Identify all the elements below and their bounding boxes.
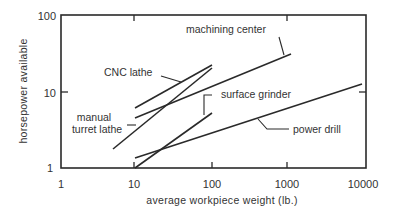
y-axis-title: horsepower available (17, 38, 29, 143)
x-tick-10: 10 (128, 178, 140, 190)
series-manual-turret-lathe (113, 68, 212, 149)
x-tick-1000: 1000 (275, 178, 299, 190)
x-axis-title: average workpiece weight (lb.) (146, 194, 297, 206)
series-machining-center (135, 54, 291, 118)
plot-frame (61, 15, 366, 168)
x-tick-100: 100 (203, 178, 221, 190)
chart: 1 10 100 1000 10000 1 10 100 average wor… (0, 0, 396, 216)
label-power-drill: power drill (293, 123, 341, 135)
label-turret-lathe: turret lathe (72, 123, 122, 135)
y-tick-100: 100 (38, 10, 56, 22)
y-tick-1: 1 (47, 162, 53, 174)
label-surface-grinder: surface grinder (221, 88, 292, 100)
label-machining-center: machining center (186, 23, 266, 35)
label-cnc-lathe: CNC lathe (104, 66, 153, 78)
label-manual: manual (77, 111, 111, 123)
y-tick-10: 10 (44, 87, 56, 99)
x-tick-10000: 10000 (348, 178, 379, 190)
x-tick-1: 1 (58, 178, 64, 190)
